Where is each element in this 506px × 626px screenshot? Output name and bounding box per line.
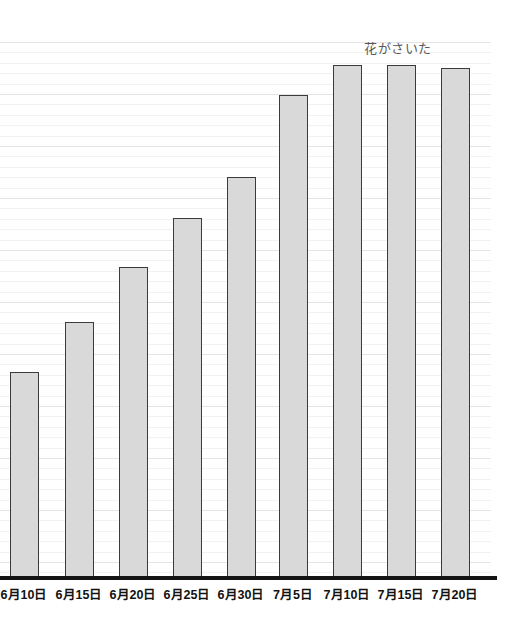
bar <box>227 177 256 578</box>
bar <box>65 322 94 578</box>
x-axis-label: 6月20日 <box>105 584 161 603</box>
x-axis-tick-labels: 6月10日6月15日6月20日6月25日6月30日7月5日7月10日7月15日7… <box>0 584 506 606</box>
bar <box>119 267 148 578</box>
x-axis-label: 7月5日 <box>265 584 321 603</box>
x-axis-label: 6月25日 <box>159 584 215 603</box>
bars-layer <box>0 42 491 578</box>
bloom-annotation-label: 花がさいた <box>364 38 432 57</box>
bar <box>10 372 39 578</box>
x-axis-label: 7月15日 <box>373 584 429 603</box>
x-axis-label: 7月20日 <box>427 584 483 603</box>
plot-area <box>0 42 491 578</box>
bar <box>173 218 202 578</box>
x-axis-label: 7月10日 <box>319 584 375 603</box>
x-axis-label: 6月10日 <box>0 584 52 603</box>
x-axis-label: 6月15日 <box>51 584 107 603</box>
bar <box>441 68 470 578</box>
x-axis-line <box>0 576 497 580</box>
bar <box>387 65 416 578</box>
x-axis-label: 6月30日 <box>213 584 269 603</box>
bar <box>279 95 308 578</box>
bar-chart: 花がさいた 6月10日6月15日6月20日6月25日6月30日7月5日7月10日… <box>0 0 506 626</box>
bar <box>333 65 362 578</box>
